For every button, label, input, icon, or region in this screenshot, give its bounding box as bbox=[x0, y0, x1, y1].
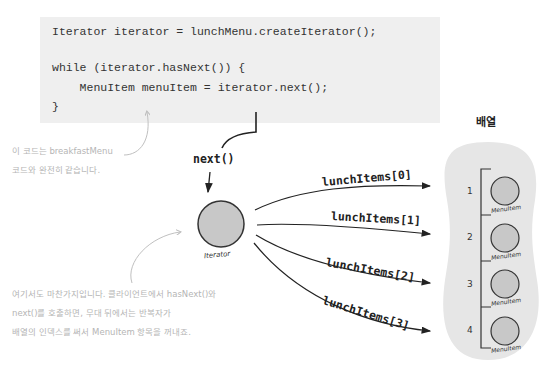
next-label: next() bbox=[193, 152, 235, 166]
array-slot-3-circle bbox=[491, 270, 519, 298]
slot-index-4: 4 bbox=[467, 325, 473, 335]
next-bracket bbox=[222, 112, 256, 148]
array-slot-4-circle bbox=[491, 317, 519, 345]
array-slot-2-circle bbox=[491, 224, 519, 252]
next-arrow bbox=[208, 172, 210, 192]
note-top: 이 코드는 breakfastMenu 코드와 완전히 같습니다. bbox=[12, 142, 113, 180]
slot-index-2: 2 bbox=[467, 232, 473, 242]
note-bottom: 여기서도 마찬가지입니다. 클라이언트에서 hasNext()와 next()를… bbox=[12, 285, 216, 342]
iterator-node bbox=[198, 201, 244, 247]
array-title: 배열 bbox=[476, 113, 496, 129]
note-pointer-bottom bbox=[131, 232, 180, 283]
note-pointer-top bbox=[124, 112, 148, 155]
array-slot-1-circle bbox=[491, 177, 519, 205]
slot-index-1: 1 bbox=[467, 186, 473, 196]
slot-index-3: 3 bbox=[467, 279, 473, 289]
